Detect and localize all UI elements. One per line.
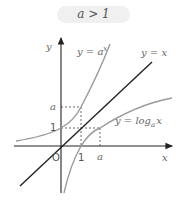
logarithm-label: y = logax (114, 115, 162, 129)
identity-label: y = x (140, 47, 167, 58)
x-tick-1: 1 (78, 152, 84, 163)
y-tick-1: 1 (50, 122, 56, 133)
origin-label: O (52, 152, 60, 163)
x-tick-a: a (97, 151, 103, 162)
exponential-curve (16, 44, 110, 141)
graph: y x O 1 a 1 a y = ax y = x y = logax (0, 0, 183, 211)
x-axis-label: x (162, 152, 168, 163)
y-tick-a: a (50, 101, 56, 112)
exponential-label: y = ax (76, 45, 107, 57)
guide-lines (61, 107, 100, 146)
y-axis-label: y (45, 41, 52, 52)
